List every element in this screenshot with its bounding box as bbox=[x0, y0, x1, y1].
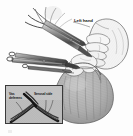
inset-detail-box: Vas deferens Serosal side bbox=[5, 85, 63, 124]
dissecting-forceps bbox=[42, 20, 92, 57]
hemostat-clamp bbox=[7, 52, 80, 69]
surgical-illustration-figure: Left hand Vas deferens bbox=[0, 0, 133, 136]
label-left-hand: Left hand bbox=[74, 19, 93, 24]
label-vas-deferens: Vas deferens bbox=[9, 93, 24, 100]
label-serosal-side: Serosal side bbox=[34, 93, 52, 96]
